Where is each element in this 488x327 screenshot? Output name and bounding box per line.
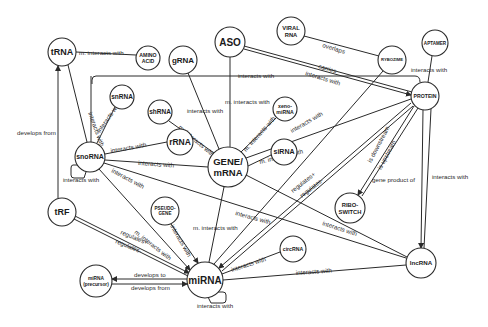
node-label: PSEUDO-	[155, 206, 176, 211]
node-label: RIBO-	[342, 202, 358, 208]
node-snorna: snoRNA	[75, 142, 105, 172]
edge-label: develops from	[131, 284, 170, 291]
edge-label: interacts with	[296, 266, 333, 276]
node-label: GENE	[158, 211, 171, 216]
node-rrna: rRNA	[167, 129, 193, 155]
edge-label: m. interacts with	[225, 98, 270, 105]
node-label: snRNA	[111, 93, 133, 100]
edge-label: m. interacts with	[193, 224, 238, 231]
edge-label: develops from	[17, 129, 56, 136]
node-snrna: snRNA	[110, 85, 134, 109]
edge-label: interacts with	[197, 302, 234, 309]
edge-label: interacts with	[411, 66, 448, 73]
node-label: RYBOZIME	[381, 57, 403, 62]
node-label: VIRAL	[282, 25, 300, 31]
node-label: gRNA	[172, 56, 194, 65]
node-label: tRNA	[51, 47, 74, 57]
node-genemrna: GENE/mRNA	[208, 147, 248, 187]
node-label: circRNA	[283, 246, 304, 252]
edge-label: interacts with	[432, 173, 469, 180]
node-pseudo: PSEUDO-GENE	[151, 197, 179, 225]
node-riboswitch: RIBO-SWITCH	[335, 193, 365, 223]
node-label: miRNA	[276, 109, 294, 115]
node-label: AMINO	[139, 52, 156, 58]
edge-label: interacts with	[138, 159, 175, 169]
node-ribozyme: RYBOZIME	[378, 46, 406, 74]
edge-label: interacts with	[63, 176, 100, 183]
edge-label: interacts with	[187, 107, 224, 114]
node-label: xeno-	[278, 103, 292, 109]
node-sirna: siRNA	[271, 139, 297, 165]
edge-label: interacts with	[230, 255, 267, 273]
node-xeno: xeno-miRNA	[273, 97, 297, 121]
node-label: rRNA	[169, 137, 191, 147]
node-shrna: shRNA	[148, 100, 172, 124]
node-label: ACID	[142, 58, 155, 64]
node-trf: tRF	[48, 198, 76, 226]
node-label: siRNA	[273, 148, 294, 155]
node-label: APTAMER	[424, 41, 447, 46]
edge-label: interacts with	[238, 72, 275, 79]
node-lncrna: lncRNA	[406, 248, 436, 278]
node-amino: AMINOACID	[136, 46, 160, 70]
node-label: snoRNA	[76, 153, 104, 160]
node-trna: tRNA	[48, 38, 76, 66]
edge-label: gene product of	[372, 176, 415, 183]
ncrna-network-diagram: m. interacts withinteracts withoverlapsc…	[0, 0, 488, 327]
edge-label: interacts with	[110, 141, 147, 154]
node-label: miRNA	[88, 276, 105, 281]
node-label: lncRNA	[410, 259, 433, 266]
edge-label: overlaps	[322, 41, 346, 55]
node-label: GENE/	[213, 156, 243, 167]
edge-label: m. interacts with	[79, 49, 124, 56]
node-grna: gRNA	[169, 46, 197, 74]
node-mirna_pre: miRNA(precursor)	[80, 265, 112, 297]
node-circrna: circRNA	[280, 236, 306, 262]
node-aptamer: APTAMER	[422, 30, 448, 56]
node-label: mRNA	[213, 167, 242, 178]
node-label: ASO	[219, 37, 241, 48]
node-label: PROTEIN	[413, 93, 436, 99]
node-aso: ASO	[215, 27, 245, 57]
edge-label: interacts with	[235, 209, 272, 225]
node-label: (precursor)	[83, 282, 109, 287]
node-label: tRF	[55, 207, 70, 217]
node-protein: PROTEIN	[411, 82, 439, 110]
node-label: shRNA	[149, 108, 171, 115]
node-label: RNA	[285, 32, 298, 38]
edge-label: interacts with	[169, 223, 193, 258]
node-label: SWITCH	[339, 209, 362, 215]
edge-label: develops to	[134, 271, 166, 278]
node-label: miRNA	[188, 275, 221, 286]
node-viral: VIRALRNA	[277, 17, 305, 45]
edge-label: interacts with	[305, 69, 342, 86]
node-mirna: miRNA	[187, 262, 223, 298]
